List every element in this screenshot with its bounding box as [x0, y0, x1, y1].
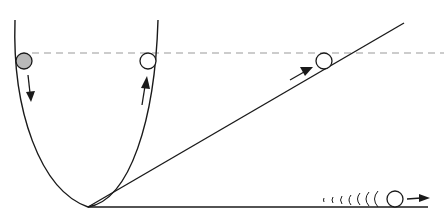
inclined-ramp — [88, 23, 404, 207]
galileo-ramp-diagram — [0, 0, 444, 220]
motion-trail — [324, 191, 379, 207]
incline-ball — [316, 53, 332, 69]
horizontal-ball — [387, 191, 403, 207]
u-right-ball — [140, 53, 156, 69]
right-arrow-icon — [407, 194, 430, 202]
released-ball — [16, 53, 32, 69]
up-arrow-icon — [141, 76, 150, 105]
down-arrow-icon — [26, 75, 35, 102]
